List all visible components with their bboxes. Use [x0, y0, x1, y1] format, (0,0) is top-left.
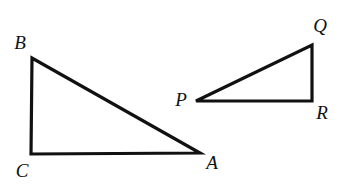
vertex-label-b: B	[14, 33, 26, 52]
triangle-pqr	[196, 45, 312, 101]
vertex-label-q: Q	[313, 16, 327, 35]
geometry-diagram: B C A P Q R	[0, 0, 345, 187]
vertex-label-r: R	[316, 103, 328, 122]
geometry-canvas	[0, 0, 345, 187]
vertex-label-p: P	[175, 90, 187, 109]
vertex-label-c: C	[16, 161, 29, 180]
vertex-label-a: A	[206, 153, 218, 172]
